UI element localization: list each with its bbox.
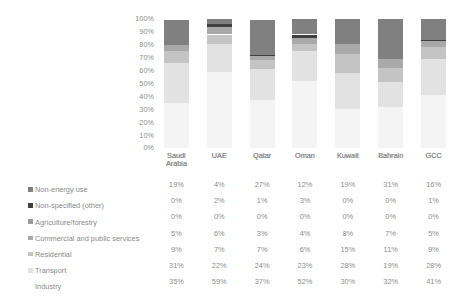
legend-item-label: Agriculture/forestry (35, 218, 97, 227)
y-axis-tick-label: 50% (112, 80, 154, 87)
table-cell: 0% (198, 212, 241, 221)
table-cell: 5% (155, 229, 198, 238)
table-cell: 7% (198, 245, 241, 254)
bar-segment (292, 19, 317, 34)
bar-segment (207, 19, 232, 24)
bar-segment (292, 81, 317, 148)
stacked-bar (421, 19, 446, 148)
y-axis-tick-label: 20% (112, 119, 154, 126)
table-cell: 0% (369, 212, 412, 221)
bar-segment (335, 54, 360, 73)
table-cell: 4% (198, 180, 241, 189)
y-axis-tick-label: 80% (112, 41, 154, 48)
table-cell: 6% (198, 229, 241, 238)
bar-segment (250, 69, 275, 100)
table-cell: 19% (326, 180, 369, 189)
table-cell: 35% (155, 277, 198, 286)
bar-segment (164, 51, 189, 63)
table-cell: 2% (198, 196, 241, 205)
bar-segment (207, 24, 232, 27)
table-cell: 30% (326, 277, 369, 286)
table-cell: 59% (198, 277, 241, 286)
bar-segment (378, 107, 403, 148)
y-axis-tick-label: 60% (112, 67, 154, 74)
bar-segment (421, 95, 446, 148)
table-cell: 52% (284, 277, 327, 286)
bar-segment (292, 38, 317, 43)
table-column-header: Bahrain (369, 152, 412, 160)
bar-segment (335, 44, 360, 54)
bar-segment (250, 55, 275, 56)
stacked-bar (207, 19, 232, 148)
bar-segment (164, 20, 189, 45)
bar-segment (421, 41, 446, 47)
legend-item-label: Non-specified (other) (35, 201, 104, 210)
table-cell: 8% (326, 229, 369, 238)
legend-item-label: Non-energy use (35, 185, 88, 194)
bar-column[interactable] (412, 19, 455, 148)
table-column-header: Qatar (241, 152, 284, 160)
bar-segment (378, 19, 403, 59)
y-axis: 100%90%80%70%60%50%40%30%20%10%0% (112, 16, 154, 148)
legend-color-swatch-icon (28, 203, 33, 208)
stacked-bar (292, 19, 317, 148)
legend-color-swatch-icon (28, 236, 33, 241)
legend-item[interactable]: Agriculture/forestry (28, 212, 97, 222)
table-cell: 22% (198, 261, 241, 270)
bar-segment (207, 35, 232, 44)
stacked-bar (164, 19, 189, 148)
bar-column[interactable] (155, 19, 198, 148)
bar-segment (250, 100, 275, 148)
bar-segment (421, 59, 446, 95)
bar-column[interactable] (241, 19, 284, 148)
table-cell: 7% (241, 245, 284, 254)
bar-segment (164, 103, 189, 148)
bar-column[interactable] (284, 19, 327, 148)
y-axis-tick-label: 70% (112, 54, 154, 61)
bar-column[interactable] (369, 19, 412, 148)
table-cell: 19% (369, 261, 412, 270)
table-cell: 7% (369, 229, 412, 238)
bar-segment (250, 56, 275, 60)
bar-segment (164, 45, 189, 51)
bar-segment (421, 19, 446, 40)
y-axis-tick-label: 40% (112, 93, 154, 100)
legend-item[interactable]: Non-specified (other) (28, 196, 104, 206)
bar-segment (250, 60, 275, 69)
table-cell: 15% (326, 245, 369, 254)
table-column-header: UAE (198, 152, 241, 160)
legend-item[interactable]: Residential (28, 245, 72, 255)
legend-color-swatch-icon (28, 187, 33, 192)
chart-plot-region: 100%90%80%70%60%50%40%30%20%10%0% SaudiA… (0, 0, 464, 158)
table-cell: 1% (412, 196, 455, 205)
legend-color-swatch-icon (28, 252, 33, 257)
bar-segment (292, 51, 317, 81)
bar-column[interactable] (198, 19, 241, 148)
table-cell: 28% (326, 261, 369, 270)
bar-segment (378, 59, 403, 68)
table-cell: 9% (155, 245, 198, 254)
table-cell: 0% (412, 212, 455, 221)
legend-color-swatch-icon (28, 219, 33, 224)
stacked-bar (378, 19, 403, 148)
table-cell: 16% (412, 180, 455, 189)
bar-column[interactable] (326, 19, 369, 148)
table-column-header: SaudiArabia (155, 152, 198, 169)
table-cell: 0% (284, 212, 327, 221)
table-cell: 4% (284, 229, 327, 238)
table-cell: 0% (326, 196, 369, 205)
table-cell: 37% (241, 277, 284, 286)
legend-and-table: SaudiArabiaUAEQatarOmanKuwaitBahrainGCCN… (0, 158, 464, 302)
table-cell: 1% (241, 196, 284, 205)
bar-segment (164, 63, 189, 103)
table-cell: 12% (284, 180, 327, 189)
legend-item[interactable]: Non-energy use (28, 180, 88, 190)
table-cell: 0% (369, 196, 412, 205)
bar-segment (207, 44, 232, 72)
y-axis-tick-label: 90% (112, 28, 154, 35)
legend-item-label: Industry (35, 282, 61, 291)
chart-figure: 100%90%80%70%60%50%40%30%20%10%0% SaudiA… (0, 0, 464, 302)
legend-item[interactable]: Commercial and public services (28, 229, 139, 239)
legend-item[interactable]: Transport (28, 261, 66, 271)
legend-item[interactable]: Industry (28, 277, 61, 287)
